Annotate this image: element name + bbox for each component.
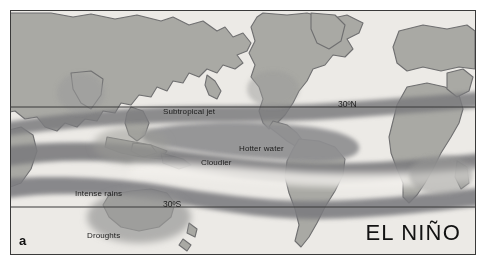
label-droughts: Droughts bbox=[87, 231, 120, 240]
label-hotter-water: Hotter water bbox=[239, 144, 284, 153]
label-latitude-30s: 30ºS bbox=[163, 199, 181, 209]
figure-title: EL NIÑO bbox=[365, 220, 461, 246]
panel-letter: a bbox=[19, 233, 26, 248]
label-intense-rains: Intense rains bbox=[75, 189, 122, 198]
world-map-graphic bbox=[11, 11, 475, 254]
label-latitude-30n: 30ºN bbox=[338, 99, 357, 109]
label-cloudier: Cloudier bbox=[201, 158, 232, 167]
label-subtropical-jet: Subtropical jet bbox=[163, 107, 215, 116]
el-nino-figure: Subtropical jet Hotter water Cloudier In… bbox=[0, 0, 486, 268]
land-europe bbox=[393, 25, 475, 71]
map-frame: Subtropical jet Hotter water Cloudier In… bbox=[10, 10, 476, 255]
